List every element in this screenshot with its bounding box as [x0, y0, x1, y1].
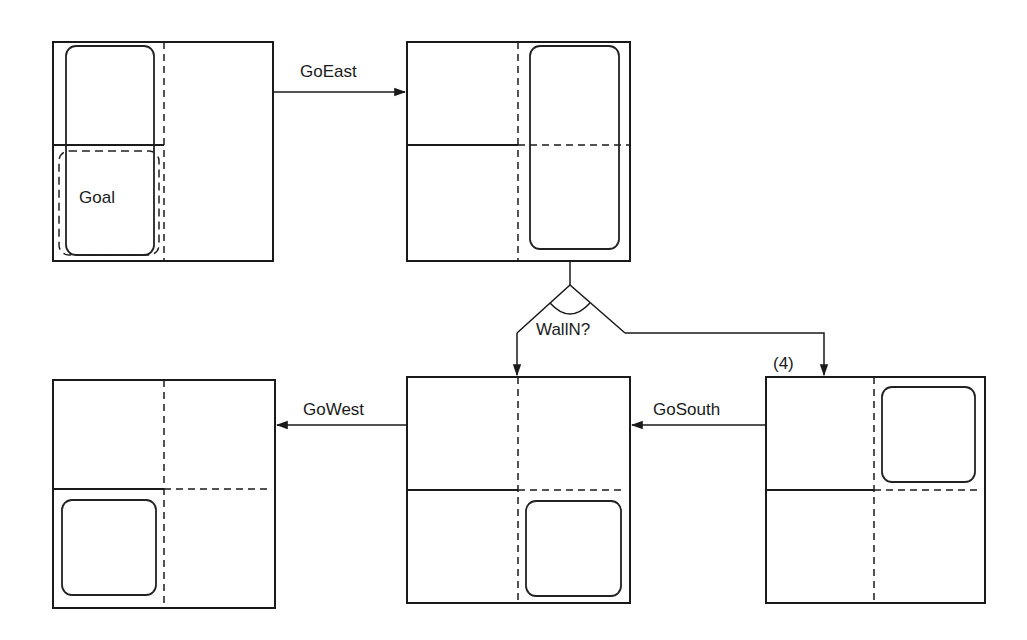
- plan-diagram: [0, 0, 1027, 640]
- state-box-after-gosouth: [407, 377, 630, 603]
- gowest-label: GoWest: [303, 400, 364, 420]
- gosouth-label: GoSouth: [653, 400, 720, 420]
- decision-right-branch: [625, 333, 824, 375]
- belief-region: [530, 46, 619, 249]
- belief-region: [882, 387, 975, 482]
- state-box-initial: [53, 42, 273, 261]
- state-box-after-goeast: [407, 42, 630, 261]
- goeast-label: GoEast: [300, 62, 357, 82]
- state-box-wall-north: [766, 377, 985, 603]
- branch-marker-label: (4): [773, 354, 794, 374]
- state-box-after-gowest: [53, 380, 275, 608]
- wallN-decision-label: WallN?: [536, 320, 590, 340]
- belief-region: [526, 501, 621, 596]
- goal-label: Goal: [79, 188, 115, 208]
- belief-region: [62, 500, 156, 595]
